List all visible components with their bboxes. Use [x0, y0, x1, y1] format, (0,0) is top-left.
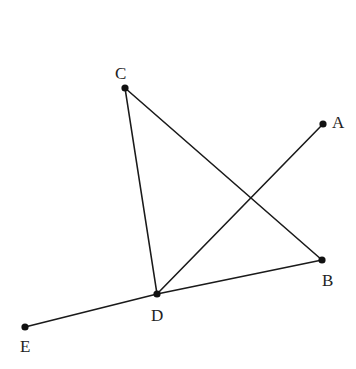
segment-e-d — [25, 294, 157, 327]
label-a: A — [332, 113, 345, 132]
segment-d-a — [157, 124, 323, 294]
segment-c-d — [125, 88, 157, 294]
labels-group: A B C D E — [20, 64, 345, 356]
point-b — [318, 256, 325, 263]
point-a — [319, 120, 326, 127]
segment-c-b — [125, 88, 322, 260]
label-d: D — [151, 306, 163, 325]
segments-group — [25, 88, 323, 327]
geometry-diagram: A B C D E — [0, 0, 356, 369]
point-e — [21, 323, 28, 330]
label-e: E — [20, 337, 30, 356]
points-group — [21, 84, 326, 330]
label-c: C — [115, 64, 126, 83]
label-b: B — [322, 271, 333, 290]
segment-d-b — [157, 260, 322, 294]
point-c — [121, 84, 128, 91]
point-d — [153, 290, 160, 297]
